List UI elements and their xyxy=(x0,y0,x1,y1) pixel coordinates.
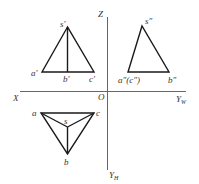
side-view xyxy=(128,26,169,72)
front-a-label: a′ xyxy=(31,68,39,78)
origin-label: O xyxy=(98,92,105,102)
side-view-outline xyxy=(128,26,169,72)
yw-axis-label: YW xyxy=(176,94,187,105)
front-view xyxy=(42,27,94,72)
z-axis-label: Z xyxy=(98,9,104,19)
side-b-label: b″ xyxy=(168,75,177,85)
projection-diagram: X Z O YW YH s′ a′ b′ c′ s″ a″(c″) b″ a c… xyxy=(0,0,199,184)
side-s-label: s″ xyxy=(145,16,153,26)
top-a-label: a xyxy=(32,108,37,118)
yh-axis-label: YH xyxy=(109,170,119,181)
top-s-label: s xyxy=(64,116,68,126)
front-c-label: c′ xyxy=(89,74,96,84)
x-axis-label: X xyxy=(12,93,19,103)
side-ac-label: a″(c″) xyxy=(118,75,140,85)
top-b-label: b xyxy=(64,157,69,167)
front-s-label: s′ xyxy=(60,19,67,29)
top-c-label: c xyxy=(96,108,100,118)
front-b-label: b′ xyxy=(63,74,71,84)
